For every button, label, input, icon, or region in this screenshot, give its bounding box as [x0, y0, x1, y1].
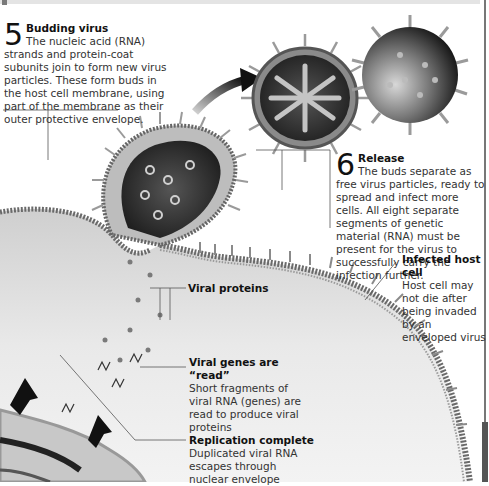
viral-genes-read-title: Viral genes are “read”	[189, 356, 314, 382]
curved-arrow-icon	[195, 80, 245, 112]
virus-cross-section-icon	[241, 34, 369, 162]
virus-exterior-icon	[352, 15, 468, 135]
viral-proteins-title: Viral proteins	[188, 282, 308, 295]
label-infected-host-cell: Infected host cell Host cell may not die…	[402, 253, 488, 344]
infected-host-cell-text: Host cell may not die after being invade…	[402, 279, 486, 343]
infected-host-cell-title: Infected host cell	[402, 253, 488, 279]
label-viral-proteins: Viral proteins	[188, 282, 308, 295]
replication-complete-text: Duplicated viral RNA escapes through nuc…	[189, 447, 298, 485]
viral-genes-read-text: Short fragments of viral RNA (genes) are…	[189, 382, 301, 433]
label-viral-genes-read: Viral genes are “read” Short fragments o…	[189, 356, 314, 434]
label-replication-complete: Replication complete Duplicated viral RN…	[189, 434, 314, 486]
step-5-caption: 5 Budding virus The nucleic acid (RNA) s…	[4, 22, 174, 126]
step-5-title: Budding virus	[26, 22, 108, 34]
step-6-title: Release	[358, 152, 404, 164]
replication-complete-title: Replication complete	[189, 434, 314, 447]
step-6-number: 6	[336, 152, 355, 178]
step-5-text: The nucleic acid (RNA) strands and prote…	[4, 35, 167, 125]
step-5-number: 5	[4, 22, 23, 48]
